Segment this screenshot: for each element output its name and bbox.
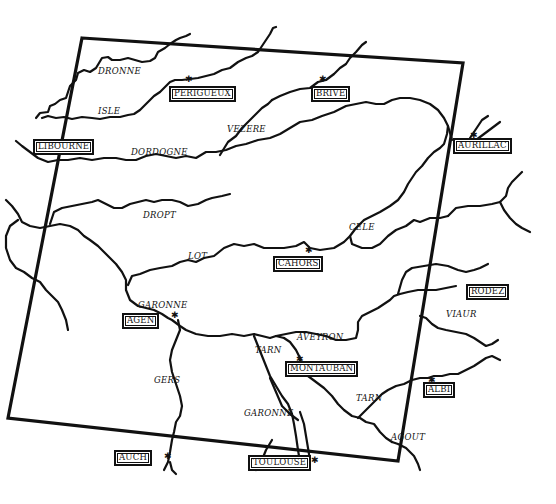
river-label-dordogne: DORDOGNE [131,148,188,157]
river-gers-fork [170,462,176,474]
river-label-cele: CELE [349,223,375,232]
river-label-lot: LOT [188,252,207,261]
river-dropt [50,194,230,224]
city-label-agen: AGEN [122,313,159,329]
city-label-libourne: LIBOURNE [33,139,94,155]
city-label-cahors: CAHORS [273,256,323,272]
river-toulouse-trib [300,412,310,460]
city-label-brive: BRIVE [311,86,350,102]
city-marker-perigueux-icon: ✱ [185,75,193,84]
city-label-perigueux: PERIGUEUX [169,86,236,102]
river-label-gers: GERS [154,376,180,385]
river-agout [392,442,420,470]
river-lot-upper [448,172,522,216]
city-marker-cahors-icon: ✱ [305,246,313,255]
river-label-tarn-south: TARN [356,394,382,403]
city-marker-agen-icon: ✱ [171,311,179,320]
city-label-rodez: RODEZ [466,284,509,300]
city-label-montauban: MONTAUBAN [285,361,358,377]
river-viaur [420,316,498,346]
river-gers [164,320,182,470]
city-marker-brive-icon: ✱ [319,75,327,84]
river-label-tarn-north: TARN [255,346,281,355]
river-label-garonne-south: GARONNE [244,409,293,418]
city-label-auch: AUCH [114,450,152,466]
river-label-viaur: VIAUR [446,310,477,319]
city-marker-auch-icon: ✱ [164,452,172,461]
city-marker-toulouse-icon: ✱ [311,456,319,465]
city-label-aurillac: AURILLAC [453,138,512,154]
river-lot-branch [500,202,530,232]
river-label-aveyron: AVEYRON [297,333,344,342]
map-canvas [0,0,556,504]
city-label-albi: ALBI [423,382,455,398]
river-label-agout: AGOUT [391,433,425,442]
river-label-dronne: DRONNE [98,67,141,76]
river-label-garonne-north: GARONNE [138,301,187,310]
river-label-vezere: VEZERE [227,125,266,134]
river-label-isle: ISLE [98,107,120,116]
river-label-dropt: DROPT [143,211,176,220]
city-label-toulouse: TOULOUSE [248,455,311,471]
